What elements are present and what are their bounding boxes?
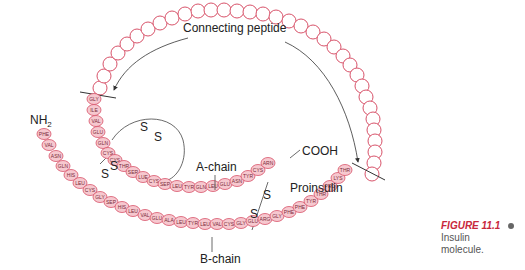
svg-text:TYR: TYR xyxy=(243,173,253,179)
residue-asn: ASN xyxy=(49,151,63,162)
svg-text:LYS: LYS xyxy=(333,175,343,181)
residue-ala: ALA xyxy=(162,215,176,226)
svg-text:HIS: HIS xyxy=(67,172,76,178)
residue-phe: PHE xyxy=(37,129,51,140)
s-label: S xyxy=(101,167,109,181)
caption-text-1: Insulin xyxy=(441,232,470,243)
svg-text:VAL: VAL xyxy=(212,221,221,227)
s-label: S xyxy=(154,130,162,144)
svg-text:ASN: ASN xyxy=(51,153,62,159)
residue-ile: ILE xyxy=(87,105,101,116)
svg-text:VAL: VAL xyxy=(140,212,149,218)
s-label: S xyxy=(140,120,148,134)
figure-number: FIGURE 11.1 xyxy=(441,220,500,231)
residue-arn: ARN xyxy=(261,158,275,169)
svg-text:ARN: ARN xyxy=(263,160,274,166)
a-chain-label: A-chain xyxy=(196,160,237,174)
svg-text:VAL: VAL xyxy=(44,142,53,148)
residue-val: VAL xyxy=(42,140,56,151)
svg-text:CYS: CYS xyxy=(224,221,235,227)
residue-leu: LEU xyxy=(206,181,220,192)
connecting-peptide-label: Connecting peptide xyxy=(183,21,287,35)
residue-thr: THR xyxy=(338,165,352,176)
svg-text:LEU: LEU xyxy=(176,219,186,225)
svg-text:ASN: ASN xyxy=(232,178,243,184)
svg-text:TYR: TYR xyxy=(188,220,198,226)
svg-text:LEU: LEU xyxy=(172,183,182,189)
svg-text:PHE: PHE xyxy=(295,204,306,210)
svg-text:CYS: CYS xyxy=(253,167,264,173)
svg-text:LEU: LEU xyxy=(128,208,138,214)
s-label: S xyxy=(110,159,118,173)
svg-text:ILE: ILE xyxy=(90,107,98,113)
svg-text:GLU: GLU xyxy=(220,181,231,187)
residue-sep: SEP xyxy=(158,179,172,190)
cooh-label: COOH xyxy=(302,144,338,158)
residue-glu: GLU xyxy=(150,213,164,224)
svg-text:GLU: GLU xyxy=(93,129,104,135)
svg-text:LEU: LEU xyxy=(75,180,85,186)
residue-gln: GLN xyxy=(96,138,110,149)
svg-text:GLY: GLY xyxy=(236,220,246,226)
svg-text:ALA: ALA xyxy=(164,217,174,223)
svg-text:HIS: HIS xyxy=(118,204,127,210)
svg-text:TYR: TYR xyxy=(306,198,316,204)
svg-text:LUE: LUE xyxy=(138,174,148,180)
residue-chains: GLYILEVALGLUGLNCYSCYSTHRSERLUECYSSEPLEUT… xyxy=(37,94,352,230)
svg-text:LEU: LEU xyxy=(208,183,218,189)
svg-text:LEU: LEU xyxy=(200,221,210,227)
svg-text:GLY: GLY xyxy=(89,96,99,102)
residue-val: VAL xyxy=(89,116,103,127)
svg-text:SEP: SEP xyxy=(106,199,117,205)
bullet-icon xyxy=(508,223,514,229)
b-chain-label: B-chain xyxy=(200,252,241,266)
svg-text:GLN: GLN xyxy=(196,184,207,190)
svg-text:GLY: GLY xyxy=(272,213,282,219)
svg-text:GLY: GLY xyxy=(95,194,105,200)
svg-text:SEP: SEP xyxy=(160,181,171,187)
nh2-label: NH2 xyxy=(30,113,52,129)
residue-glu: GLU xyxy=(91,127,105,138)
svg-text:TYR: TYR xyxy=(184,184,194,190)
svg-text:VAL: VAL xyxy=(91,118,100,124)
figure-caption: FIGURE 11.1Insulin molecule. xyxy=(441,220,525,256)
svg-text:THR: THR xyxy=(340,167,351,173)
proinsulin-label: Proinsulin xyxy=(290,181,343,195)
s-label: S xyxy=(263,188,271,202)
caption-text-2: molecule. xyxy=(441,244,484,255)
svg-text:PHE: PHE xyxy=(39,131,50,137)
svg-text:GLN: GLN xyxy=(98,140,109,146)
residue-gly: GLY xyxy=(234,218,248,229)
svg-text:GLU: GLU xyxy=(152,215,163,221)
svg-text:GLN: GLN xyxy=(58,163,69,169)
svg-text:PHE: PHE xyxy=(284,209,295,215)
svg-text:ARG: ARG xyxy=(260,216,271,222)
svg-text:CYS: CYS xyxy=(85,187,96,193)
s-label: S xyxy=(250,207,258,221)
residue-gly: GLY xyxy=(87,94,101,105)
